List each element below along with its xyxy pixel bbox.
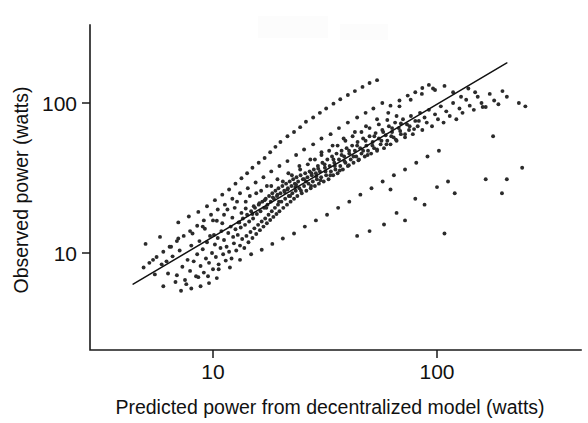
data-point (270, 191, 274, 195)
data-point (232, 241, 236, 245)
data-point (454, 117, 458, 121)
data-point (165, 259, 169, 263)
data-point (178, 248, 182, 252)
data-point (289, 200, 293, 204)
data-point (338, 164, 342, 168)
data-point (277, 200, 281, 204)
data-point (436, 117, 440, 121)
data-point (358, 193, 362, 197)
data-point (332, 102, 336, 106)
data-point (491, 134, 495, 138)
data-point (298, 168, 302, 172)
data-point (352, 161, 356, 165)
data-point (350, 144, 354, 148)
data-point (213, 243, 217, 247)
data-point (171, 254, 175, 258)
data-point (297, 164, 301, 168)
data-point (238, 258, 242, 262)
data-point (403, 168, 407, 172)
data-point (228, 266, 232, 270)
data-point (403, 132, 407, 136)
data-point (198, 239, 202, 243)
data-point (371, 106, 375, 110)
data-point (211, 218, 215, 222)
data-point (505, 95, 509, 99)
data-point (290, 173, 294, 177)
data-point (256, 223, 260, 227)
data-point (257, 161, 261, 165)
data-point (425, 121, 429, 125)
data-point (357, 158, 361, 162)
data-point (492, 98, 496, 102)
data-point (448, 114, 452, 118)
data-point (276, 193, 280, 197)
data-point (260, 220, 264, 224)
data-point (340, 149, 344, 153)
data-point (360, 130, 364, 134)
data-point (501, 89, 505, 93)
data-point (395, 114, 399, 118)
data-point (174, 280, 178, 284)
data-point (379, 142, 383, 146)
data-point (520, 166, 524, 170)
data-point (349, 158, 353, 162)
data-point (305, 175, 309, 179)
data-point (409, 114, 413, 118)
data-point (267, 213, 271, 217)
data-point (142, 266, 146, 270)
data-point (389, 134, 393, 138)
data-point (227, 188, 231, 192)
data-point (311, 179, 315, 183)
data-point (192, 259, 196, 263)
data-point (304, 120, 308, 124)
data-point (364, 111, 368, 115)
data-point (222, 213, 226, 217)
data-point (355, 116, 359, 120)
data-point (488, 92, 492, 96)
data-point (249, 252, 253, 256)
data-point (408, 124, 412, 128)
data-point (393, 121, 397, 125)
data-point (368, 229, 372, 233)
data-point (311, 142, 315, 146)
data-point (233, 206, 237, 210)
data-point (216, 208, 220, 212)
data-point (247, 240, 251, 244)
data-point (265, 221, 269, 225)
data-point (314, 218, 318, 222)
data-point (369, 152, 373, 156)
data-point (244, 200, 248, 204)
data-point (292, 197, 296, 201)
data-point (230, 197, 234, 201)
data-point (433, 88, 437, 92)
data-point (382, 223, 386, 227)
data-point (355, 234, 359, 238)
data-point (327, 149, 331, 153)
data-point (275, 212, 279, 216)
data-point (217, 262, 221, 266)
data-point (263, 156, 267, 160)
data-point (184, 282, 188, 286)
data-point (281, 179, 285, 183)
data-point (338, 169, 342, 173)
data-point (182, 234, 186, 238)
data-point (420, 128, 424, 132)
data-point (377, 122, 381, 126)
data-point (327, 177, 331, 181)
data-point (324, 173, 328, 177)
data-point (238, 244, 242, 248)
data-point (259, 189, 263, 193)
data-point (407, 128, 411, 132)
data-point (480, 101, 484, 105)
data-point (213, 198, 217, 202)
data-point (392, 173, 396, 177)
data-point (316, 167, 320, 171)
data-point (202, 218, 206, 222)
data-point (473, 90, 477, 94)
data-point (278, 140, 282, 144)
data-point (250, 236, 254, 240)
data-point (262, 175, 266, 179)
data-point (347, 163, 351, 167)
data-point (337, 126, 341, 130)
data-point (254, 232, 258, 236)
